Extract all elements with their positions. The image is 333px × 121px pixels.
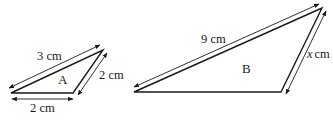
triangle-b-right-side-unit: cm [315, 47, 331, 61]
triangle-b-right-side-variable: x [306, 47, 313, 61]
triangle-a-base-label: 2 cm [30, 101, 55, 115]
triangle-b-long-side-arrow [134, 4, 319, 87]
triangle-a-long-side-label: 3 cm [37, 49, 62, 63]
triangle-b-long-side-label: 9 cm [201, 32, 226, 46]
triangle-b: 9 cm xcm B [134, 4, 330, 94]
triangle-b-right-side-label: xcm [306, 47, 330, 61]
triangle-a-name: A [58, 72, 68, 87]
triangle-b-name: B [242, 61, 251, 76]
similar-triangles-diagram: 3 cm 2 cm 2 cm A 9 cm xcm B [0, 0, 333, 121]
triangle-a: 3 cm 2 cm 2 cm A [9, 45, 124, 115]
triangle-b-outline [134, 8, 322, 92]
triangle-a-right-side-label: 2 cm [99, 68, 124, 82]
